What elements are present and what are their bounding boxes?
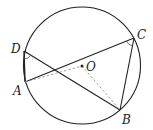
geometry-diagram: D A C B O	[0, 0, 153, 130]
segment-cb	[120, 38, 134, 110]
center-point-o	[81, 65, 84, 68]
segment-ac	[25, 38, 134, 82]
label-o: O	[86, 60, 96, 74]
segment-da	[24, 51, 25, 82]
label-a: A	[12, 84, 22, 98]
angle-mark-d	[24, 55, 31, 59]
segment-db	[24, 51, 120, 110]
label-c: C	[137, 28, 146, 42]
label-d: D	[10, 42, 21, 56]
dashed-ao	[25, 66, 82, 82]
label-b: B	[121, 113, 131, 127]
angle-mark-c	[127, 41, 133, 46]
